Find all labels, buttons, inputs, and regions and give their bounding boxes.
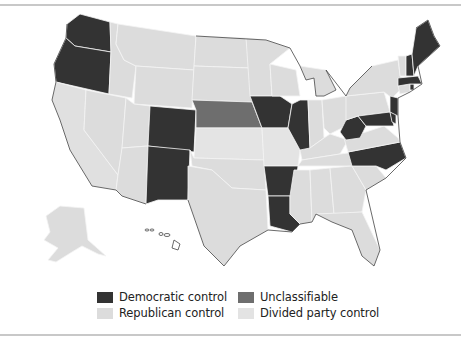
state-fl	[316, 212, 380, 266]
state-ri	[410, 84, 414, 90]
us-state-map	[0, 0, 461, 290]
legend-swatch-divided	[238, 308, 254, 319]
state-mi	[300, 66, 336, 96]
state-me	[412, 20, 440, 76]
state-co	[148, 106, 196, 152]
legend-label-divided: Divided party control	[260, 306, 379, 320]
legend-swatch-republican	[97, 308, 113, 319]
legend-item-divided: Divided party control	[238, 306, 379, 320]
state-ne	[192, 100, 262, 128]
state-hi	[145, 229, 180, 250]
state-ny	[346, 60, 402, 98]
legend-swatch-democratic	[97, 292, 113, 303]
legend-label-republican: Republican control	[119, 306, 224, 320]
state-nd	[194, 36, 250, 68]
state-nm	[146, 146, 190, 204]
state-nj	[390, 96, 398, 116]
legend-swatch-unclassifiable	[238, 292, 254, 303]
legend-label-democratic: Democratic control	[119, 290, 227, 304]
legend-item-republican: Republican control	[97, 306, 224, 320]
state-ms	[290, 170, 312, 224]
state-ut	[122, 98, 150, 148]
legend-label-unclassifiable: Unclassifiable	[260, 290, 338, 304]
legend-item-unclassifiable: Unclassifiable	[238, 290, 338, 304]
state-sd	[192, 66, 252, 102]
bottom-rule	[0, 334, 461, 336]
legend-item-democratic: Democratic control	[97, 290, 227, 304]
state-ak	[44, 206, 106, 262]
state-wy	[134, 66, 194, 108]
state-ks	[194, 128, 264, 160]
state-wi	[270, 64, 300, 96]
